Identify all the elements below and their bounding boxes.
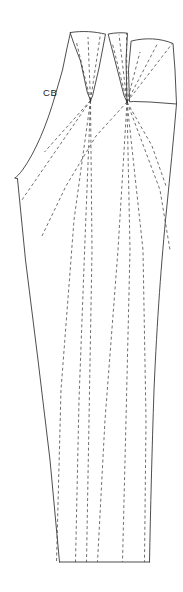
pattern-draft-figure: CB bbox=[0, 0, 183, 592]
pivot-left bbox=[90, 100, 92, 102]
center-back-label: CB bbox=[43, 87, 57, 98]
pivot-right bbox=[126, 101, 128, 103]
labels-group: CB bbox=[43, 87, 57, 98]
figure-background bbox=[0, 0, 183, 592]
